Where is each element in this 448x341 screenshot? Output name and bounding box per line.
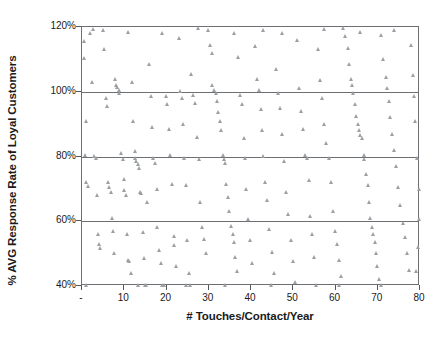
data-point xyxy=(151,156,155,160)
data-point xyxy=(346,46,350,50)
data-point xyxy=(235,269,239,273)
data-point xyxy=(284,190,288,194)
data-point xyxy=(215,99,219,103)
data-point xyxy=(200,225,204,229)
data-point xyxy=(232,31,236,35)
gridline xyxy=(82,221,418,222)
data-point xyxy=(219,128,223,132)
data-point xyxy=(357,128,361,132)
data-point xyxy=(286,212,290,216)
data-point xyxy=(167,127,171,131)
data-point xyxy=(305,156,309,160)
data-point xyxy=(168,153,172,157)
data-point xyxy=(370,225,374,229)
x-tick-mark xyxy=(335,285,336,290)
x-tick-label: 70 xyxy=(357,292,397,303)
data-point xyxy=(121,157,125,161)
data-point xyxy=(82,39,86,43)
data-point xyxy=(253,44,257,48)
data-point xyxy=(97,242,101,246)
data-point xyxy=(322,27,326,31)
data-point xyxy=(280,132,284,136)
data-point xyxy=(214,91,218,95)
data-point xyxy=(278,106,282,110)
data-point xyxy=(233,255,237,259)
data-point xyxy=(260,128,264,132)
data-point xyxy=(130,80,134,84)
data-point xyxy=(157,248,161,252)
data-point xyxy=(131,119,135,123)
data-point xyxy=(289,238,293,242)
data-point xyxy=(142,256,146,260)
y-tick-label: 100% xyxy=(16,86,76,96)
data-point xyxy=(197,157,201,161)
data-point xyxy=(242,136,246,140)
data-point xyxy=(244,187,248,191)
data-point xyxy=(412,94,416,98)
data-point xyxy=(250,261,254,265)
data-point xyxy=(202,237,206,241)
data-point xyxy=(90,80,94,84)
data-point xyxy=(297,86,301,90)
data-point xyxy=(94,156,98,160)
data-point xyxy=(106,180,110,184)
data-point xyxy=(109,190,113,194)
data-point xyxy=(362,157,366,161)
data-point xyxy=(127,259,131,263)
data-point xyxy=(195,135,199,139)
data-point xyxy=(337,258,341,262)
data-point xyxy=(329,180,333,184)
y-tick-label: 80% xyxy=(16,151,76,161)
data-point xyxy=(415,156,419,160)
data-point xyxy=(122,177,126,181)
data-point xyxy=(208,43,212,47)
data-point xyxy=(377,277,381,281)
data-point xyxy=(343,34,347,38)
data-point xyxy=(384,75,388,79)
data-point xyxy=(83,153,87,157)
data-point xyxy=(416,245,420,249)
data-point xyxy=(229,224,233,228)
data-point xyxy=(227,209,231,213)
data-point xyxy=(111,229,115,233)
data-point xyxy=(82,56,86,60)
data-point xyxy=(182,156,186,160)
data-point xyxy=(371,232,375,236)
gridline xyxy=(82,92,418,93)
data-point xyxy=(155,187,159,191)
data-point xyxy=(261,28,265,32)
data-point xyxy=(375,264,379,268)
data-point xyxy=(269,283,273,287)
x-tick-label: 30 xyxy=(188,292,228,303)
data-point xyxy=(394,164,398,168)
gridline xyxy=(82,157,418,158)
data-point xyxy=(360,136,364,140)
data-point xyxy=(159,261,163,265)
data-point xyxy=(366,183,370,187)
data-point xyxy=(379,283,383,287)
data-point xyxy=(312,255,316,259)
data-point xyxy=(417,187,421,191)
data-point xyxy=(155,225,159,229)
data-point xyxy=(388,115,392,119)
data-point xyxy=(112,251,116,255)
data-point xyxy=(295,38,299,42)
data-point xyxy=(125,232,129,236)
data-point xyxy=(257,88,261,92)
data-point xyxy=(129,271,133,275)
x-axis-title: # Touches/Contact/Year xyxy=(80,310,420,322)
data-point xyxy=(411,73,415,77)
data-point xyxy=(184,183,188,187)
data-point xyxy=(255,77,259,81)
data-point xyxy=(170,182,174,186)
data-point xyxy=(238,93,242,97)
data-point xyxy=(310,232,314,236)
data-point xyxy=(113,77,117,81)
data-point xyxy=(210,51,214,55)
data-point xyxy=(337,283,341,287)
data-point xyxy=(240,102,244,106)
data-point xyxy=(341,26,345,30)
data-point xyxy=(335,242,339,246)
data-point xyxy=(198,200,202,204)
data-point xyxy=(398,203,402,207)
